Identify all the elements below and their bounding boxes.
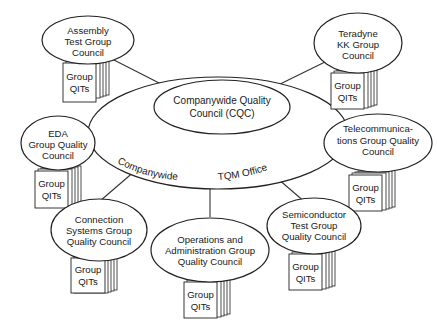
qit-label-line1: Group bbox=[292, 261, 319, 272]
council-label-line2: Test Group bbox=[291, 220, 338, 231]
qit-label-line1: Group bbox=[187, 289, 214, 300]
qit-stack: Group QITs bbox=[349, 170, 395, 211]
council-label-line1: Connection bbox=[75, 214, 124, 225]
council-connection: Group QITs Connection Systems Group Qual… bbox=[51, 199, 147, 293]
qit-label-line2: QITs bbox=[42, 190, 62, 201]
council-teradyne-kk: Group QITs Teradyne KK Group Council bbox=[314, 13, 402, 109]
qit-label-line2: QITs bbox=[78, 276, 98, 287]
council-label-line3: Council bbox=[362, 146, 394, 157]
council-label-line2: Systems Group bbox=[66, 225, 132, 236]
council-label-line3: Quality Council bbox=[178, 256, 243, 267]
cqc-label-line1: Companywide Quality bbox=[173, 95, 270, 106]
qit-label-line2: QITs bbox=[356, 194, 376, 205]
cqc-ellipse bbox=[154, 80, 290, 134]
qit-label-line1: Group bbox=[75, 264, 102, 275]
qit-stack: Group QITs bbox=[184, 277, 230, 318]
qit-stack: Group QITs bbox=[289, 249, 335, 290]
council-operations: Group QITs Operations and Administration… bbox=[151, 218, 269, 318]
qit-stack: Group QITs bbox=[331, 68, 377, 109]
qit-label-line2: QITs bbox=[70, 83, 90, 94]
council-label-line2: Administration Group bbox=[165, 245, 255, 256]
council-telecom: Group QITs Telecommunica- tions Group Qu… bbox=[324, 114, 432, 211]
central-node: Companywide Quality Council (CQC) Compan… bbox=[88, 77, 348, 189]
council-label-line3: Council bbox=[42, 150, 74, 161]
council-label-line1: EDA bbox=[48, 128, 68, 139]
qit-stack: Group QITs bbox=[35, 166, 81, 208]
council-label-line1: Semiconductor bbox=[282, 209, 347, 220]
council-label-line2: tions Group Quality bbox=[337, 135, 419, 146]
council-semiconductor: Group QITs Semiconductor Test Group Qual… bbox=[267, 198, 361, 290]
council-label-line2: Test Group bbox=[65, 36, 112, 47]
council-label-line3: Quality Council bbox=[282, 231, 347, 242]
council-label-line1: Assembly bbox=[67, 25, 109, 36]
council-label-line1: Teradyne bbox=[338, 28, 377, 39]
qit-label-line1: Group bbox=[334, 80, 361, 91]
qit-label-line1: Group bbox=[38, 178, 65, 189]
council-label-line1: Telecommunica- bbox=[343, 123, 413, 134]
edge-assembly bbox=[112, 59, 165, 86]
council-eda: Group QITs EDA Group Quality Council bbox=[21, 116, 95, 208]
council-label-line3: Quality Council bbox=[67, 236, 132, 247]
qit-label-line2: QITs bbox=[191, 301, 211, 312]
council-label-line2: Group Quality bbox=[28, 139, 87, 150]
qit-label-line1: Group bbox=[352, 182, 379, 193]
council-label-line2: KK Group bbox=[337, 39, 379, 50]
qit-label-line2: QITs bbox=[296, 273, 316, 284]
org-diagram: Companywide Quality Council (CQC) Compan… bbox=[0, 0, 437, 334]
council-assembly: Group QITs Assembly Test Group Council bbox=[42, 16, 134, 102]
qit-label-line2: QITs bbox=[338, 92, 358, 103]
cqc-label-line2: Council (CQC) bbox=[189, 108, 254, 119]
council-label-line3: Council bbox=[342, 50, 374, 61]
qit-label-line1: Group bbox=[66, 71, 93, 82]
council-label-line3: Council bbox=[72, 47, 104, 58]
qit-stack: Group QITs bbox=[63, 58, 109, 102]
council-label-line1: Operations and bbox=[177, 234, 243, 245]
